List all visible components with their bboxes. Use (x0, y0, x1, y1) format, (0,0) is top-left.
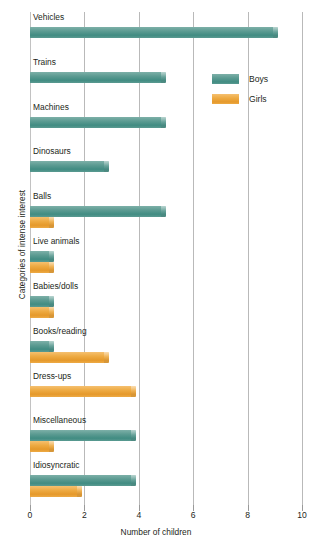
category-label: Trains (33, 57, 56, 68)
bar-cap (104, 161, 109, 172)
bar-cap (131, 475, 136, 486)
bar-girls (30, 386, 136, 397)
category-label: Idiosyncratic (33, 460, 80, 471)
chart-row: Babies/dolls (30, 281, 302, 326)
bar-boys (30, 206, 166, 217)
bar-girls (30, 307, 54, 318)
category-label: Balls (33, 191, 51, 202)
bar-cap (161, 72, 166, 83)
category-label: Babies/dolls (33, 281, 78, 292)
chart-row: Live animals (30, 236, 302, 281)
chart-row: Vehicles (30, 12, 302, 57)
bar-cap (49, 262, 54, 273)
bar-boys (30, 430, 136, 441)
bar-cap (104, 352, 109, 363)
x-tick-label-2: 2 (82, 510, 87, 520)
legend-label: Girls (249, 94, 267, 104)
bar-girls (30, 217, 54, 228)
bar-cap (161, 117, 166, 128)
category-label: Dress-ups (33, 371, 71, 382)
x-axis-tick-labels: 0246810 (30, 510, 302, 524)
x-tick-label-0: 0 (28, 510, 33, 520)
legend-label: Boys (249, 74, 268, 84)
category-label: Vehicles (33, 12, 64, 23)
bar-boys (30, 27, 278, 38)
x-tick-label-4: 4 (136, 510, 141, 520)
category-label: Live animals (33, 236, 80, 247)
bar-boys (30, 475, 136, 486)
bar-girls (30, 486, 82, 497)
chart-row: Balls (30, 191, 302, 236)
category-label: Books/reading (33, 326, 87, 337)
chart-row: Miscellaneous (30, 415, 302, 460)
bar-boys (30, 296, 54, 307)
bar-cap (49, 341, 54, 352)
bar-girls (30, 352, 109, 363)
x-tick-label-10: 10 (297, 510, 307, 520)
legend: BoysGirls (212, 72, 268, 112)
bar-boys (30, 72, 166, 83)
bar-cap (49, 307, 54, 318)
bar-boys (30, 161, 109, 172)
bar-cap (273, 27, 278, 38)
chart-row: Books/reading (30, 326, 302, 371)
bar-girls (30, 441, 54, 452)
y-axis-title: Categories of intense interest (18, 160, 27, 330)
category-label: Machines (33, 102, 69, 113)
gridline-10 (302, 12, 303, 505)
bar-boys (30, 117, 166, 128)
x-tick-label-6: 6 (191, 510, 196, 520)
bar-cap (49, 441, 54, 452)
bar-cap (49, 251, 54, 262)
bar-cap (49, 296, 54, 307)
x-tick-label-8: 8 (245, 510, 250, 520)
bar-cap (49, 217, 54, 228)
category-label: Miscellaneous (33, 415, 86, 426)
bar-boys (30, 251, 54, 262)
chart-row: Dinosaurs (30, 146, 302, 191)
legend-item-girls: Girls (212, 92, 268, 105)
bar-cap (161, 206, 166, 217)
bar-cap (131, 386, 136, 397)
bar-cap (131, 430, 136, 441)
chart-row: Idiosyncratic (30, 460, 302, 505)
legend-item-boys: Boys (212, 72, 268, 85)
category-label: Dinosaurs (33, 146, 71, 157)
x-axis-title: Number of children (0, 527, 312, 537)
legend-swatch-boys (212, 74, 239, 84)
bar-chart: Categories of intense interest VehiclesT… (0, 0, 312, 545)
legend-swatch-girls (212, 94, 239, 104)
chart-row: Dress-ups (30, 371, 302, 416)
bar-boys (30, 341, 54, 352)
bar-cap (77, 486, 82, 497)
bar-girls (30, 262, 54, 273)
